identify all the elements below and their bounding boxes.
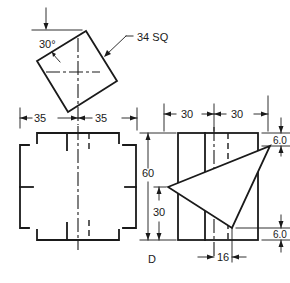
arrowhead <box>164 112 171 117</box>
dim-6-bottom: 6.0 <box>273 229 287 240</box>
arrowhead <box>157 233 162 240</box>
arrowhead <box>279 146 284 153</box>
arrowhead <box>146 133 151 140</box>
arrowhead <box>130 116 137 121</box>
arrowhead <box>146 233 151 240</box>
arrowhead <box>279 221 284 228</box>
side-view: 30 30 60 30 <box>140 96 290 265</box>
technical-drawing: 30° 34 SQ 35 35 <box>0 0 290 283</box>
arrowhead <box>207 255 214 260</box>
arrowhead <box>157 187 162 194</box>
size-label: 34 SQ <box>137 31 169 43</box>
arrowhead <box>207 112 214 117</box>
dim-60: 60 <box>142 167 154 179</box>
arrowhead <box>232 255 239 260</box>
arrowhead <box>78 116 85 121</box>
front-view: 35 35 <box>20 108 137 250</box>
view-label-d: D <box>148 253 156 265</box>
arrowhead <box>44 23 49 30</box>
dim-30-right: 30 <box>231 108 243 120</box>
dim-30-vertical: 30 <box>153 206 165 218</box>
triangular-cut <box>168 146 270 228</box>
arrowhead <box>214 112 221 117</box>
dim-35-left: 35 <box>34 112 46 124</box>
arrowhead <box>20 116 27 121</box>
arrowhead <box>279 126 284 133</box>
top-view: 30° 34 SQ <box>32 8 169 125</box>
dim-35-right: 35 <box>95 112 107 124</box>
dim-16: 16 <box>217 251 229 263</box>
arrowhead <box>71 116 78 121</box>
dim-6-top: 6.0 <box>273 135 287 146</box>
arrowhead <box>261 112 268 117</box>
arrowhead <box>279 240 284 247</box>
angle-label: 30° <box>39 38 56 50</box>
dim-30-left: 30 <box>181 108 193 120</box>
